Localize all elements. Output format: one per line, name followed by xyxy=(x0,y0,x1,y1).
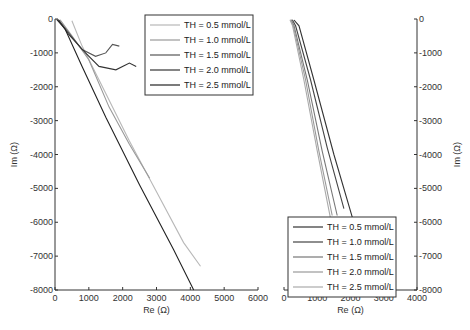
y-tick-label: -8000 xyxy=(419,285,442,295)
y-tick-label: 0 xyxy=(419,14,424,24)
x-tick-label: 3000 xyxy=(146,293,166,303)
series-line-1 xyxy=(294,20,354,222)
y-tick-label: -8000 xyxy=(30,285,53,295)
x-tick-label: 1000 xyxy=(79,293,99,303)
y-tick-label: -3000 xyxy=(419,116,442,126)
y-tick-label: -7000 xyxy=(419,251,442,261)
y-tick-label: -1000 xyxy=(419,48,442,58)
y-tick-label: -2000 xyxy=(419,82,442,92)
legend: TH = 0.5 mmol/LTH = 1.0 mmol/LTH = 1.5 m… xyxy=(145,15,253,95)
legend-entry: TH = 1.0 mmol/L xyxy=(327,237,394,247)
y-tick-label: -6000 xyxy=(30,217,53,227)
legend: TH = 0.5 mmol/LTH = 1.0 mmol/LTH = 1.5 m… xyxy=(288,217,396,297)
y-tick-label: -6000 xyxy=(419,217,442,227)
panel-left: 01000200030004000500060000-1000-2000-300… xyxy=(9,14,268,315)
y-tick-label: -7000 xyxy=(30,251,53,261)
series-line-4 xyxy=(58,20,136,70)
x-axis-label: Re (Ω) xyxy=(143,305,170,315)
legend-entry: TH = 1.5 mmol/L xyxy=(184,50,251,60)
y-tick-label: -5000 xyxy=(30,183,53,193)
legend-entry: TH = 2.0 mmol/L xyxy=(184,65,251,75)
y-tick-label: -2000 xyxy=(30,82,53,92)
y-tick-label: -5000 xyxy=(419,183,442,193)
panel-right: 010002000300040000-1000-2000-3000-4000-5… xyxy=(281,14,462,315)
legend-entry: TH = 0.5 mmol/L xyxy=(327,222,394,232)
legend-entry: TH = 1.0 mmol/L xyxy=(184,35,251,45)
y-tick-label: -4000 xyxy=(30,150,53,160)
series-line-2 xyxy=(292,20,344,209)
y-tick-label: -1000 xyxy=(30,48,53,58)
y-axis-label: Im (Ω) xyxy=(9,142,19,167)
x-axis-label: Re (Ω) xyxy=(337,305,364,315)
y-axis-label: Im (Ω) xyxy=(452,142,462,167)
legend-entry: TH = 1.5 mmol/L xyxy=(327,252,394,262)
x-tick-label: 4000 xyxy=(180,293,200,303)
y-tick-label: 0 xyxy=(48,14,53,24)
legend-entry: TH = 2.5 mmol/L xyxy=(327,282,394,292)
x-tick-label: 6000 xyxy=(248,293,268,303)
y-tick-label: -3000 xyxy=(30,116,53,126)
impedance-chart: 01000200030004000500060000-1000-2000-300… xyxy=(0,0,470,330)
legend-entry: TH = 0.5 mmol/L xyxy=(184,20,251,30)
y-tick-label: -4000 xyxy=(419,150,442,160)
series-line-3 xyxy=(58,20,119,57)
x-tick-label: 0 xyxy=(281,293,286,303)
legend-entry: TH = 2.5 mmol/L xyxy=(184,80,251,90)
x-tick-label: 0 xyxy=(52,293,57,303)
x-tick-label: 2000 xyxy=(113,293,133,303)
x-tick-label: 5000 xyxy=(214,293,234,303)
legend-entry: TH = 2.0 mmol/L xyxy=(327,267,394,277)
